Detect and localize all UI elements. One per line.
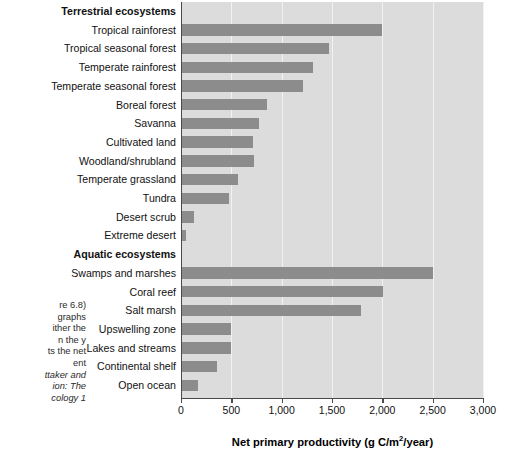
bar-row: Desert scrub — [0, 208, 509, 227]
x-tick-label: 2,500 — [420, 404, 446, 416]
category-label: Open ocean — [0, 376, 176, 395]
x-tick-label: 1,500 — [319, 404, 345, 416]
bar — [182, 267, 433, 278]
bar-row: Lakes and streams — [0, 339, 509, 358]
bar — [182, 80, 303, 91]
bar-row: Upswelling zone — [0, 320, 509, 339]
category-label: Upswelling zone — [0, 320, 176, 339]
figure-bar-chart-npp: re 6.8)graphsither then the yts the nete… — [0, 0, 509, 458]
x-axis-title: Net primary productivity (g C/m2/year) — [181, 434, 484, 448]
bar-row: Continental shelf — [0, 357, 509, 376]
x-tick — [433, 398, 434, 403]
x-axis-title-superscript: 2 — [399, 434, 403, 443]
x-tick — [332, 398, 333, 403]
bar-row: Coral reef — [0, 283, 509, 302]
bar — [182, 361, 217, 372]
x-tick-label: 2,000 — [369, 404, 395, 416]
group-header-row: Terrestrial ecosystems — [0, 2, 509, 21]
category-label: Woodland/shrubland — [0, 152, 176, 171]
bar-row: Cultivated land — [0, 133, 509, 152]
bar — [182, 99, 267, 110]
bar-row: Temperate rainforest — [0, 58, 509, 77]
category-label: Tundra — [0, 189, 176, 208]
x-tick — [282, 398, 283, 403]
bar — [182, 155, 254, 166]
group-header-row: Aquatic ecosystems — [0, 245, 509, 264]
bar — [182, 305, 361, 316]
x-tick-label: 1,000 — [269, 404, 295, 416]
bar — [182, 342, 231, 353]
x-tick-label: 3,000 — [470, 404, 496, 416]
chart-area: 05001,0001,5002,0002,5003,000 Terrestria… — [0, 0, 509, 458]
bar — [182, 43, 329, 54]
category-label: Temperate rainforest — [0, 58, 176, 77]
bar — [182, 193, 229, 204]
bar — [182, 136, 253, 147]
bar-row: Savanna — [0, 114, 509, 133]
bar-row: Boreal forest — [0, 96, 509, 115]
x-tick — [382, 398, 383, 403]
category-label: Boreal forest — [0, 96, 176, 115]
category-label: Temperate seasonal forest — [0, 77, 176, 96]
category-label: Coral reef — [0, 283, 176, 302]
x-tick — [181, 398, 182, 403]
bar-row: Tropical seasonal forest — [0, 39, 509, 58]
bar-row: Temperate grassland — [0, 170, 509, 189]
x-tick-label: 500 — [223, 404, 241, 416]
category-label: Tropical rainforest — [0, 21, 176, 40]
bar — [182, 230, 186, 241]
bar-row: Tundra — [0, 189, 509, 208]
bar — [182, 174, 238, 185]
group-label: Terrestrial ecosystems — [0, 2, 176, 21]
bar — [182, 211, 194, 222]
x-tick-label: 0 — [178, 404, 184, 416]
bar — [182, 380, 198, 391]
bar-row: Swamps and marshes — [0, 264, 509, 283]
group-label: Aquatic ecosystems — [0, 245, 176, 264]
category-label: Tropical seasonal forest — [0, 39, 176, 58]
category-label: Extreme desert — [0, 226, 176, 245]
bar-row: Salt marsh — [0, 301, 509, 320]
category-label: Lakes and streams — [0, 339, 176, 358]
x-tick — [483, 398, 484, 403]
x-tick — [231, 398, 232, 403]
category-label: Cultivated land — [0, 133, 176, 152]
bar-row: Temperate seasonal forest — [0, 77, 509, 96]
bar-row: Open ocean — [0, 376, 509, 395]
category-label: Salt marsh — [0, 301, 176, 320]
bar-row: Tropical rainforest — [0, 21, 509, 40]
category-label: Savanna — [0, 114, 176, 133]
bar — [182, 323, 231, 334]
category-label: Temperate grassland — [0, 170, 176, 189]
bar-row: Woodland/shrubland — [0, 152, 509, 171]
bar — [182, 286, 383, 297]
bar — [182, 118, 259, 129]
category-label: Desert scrub — [0, 208, 176, 227]
bar-row: Extreme desert — [0, 226, 509, 245]
category-label: Continental shelf — [0, 357, 176, 376]
category-label: Swamps and marshes — [0, 264, 176, 283]
bar — [182, 24, 382, 35]
bar — [182, 62, 313, 73]
